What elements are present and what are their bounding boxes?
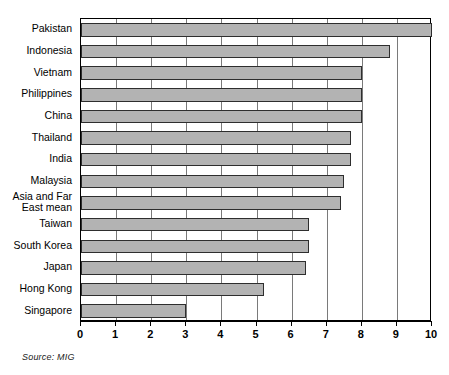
bar-chart-figure: PakistanIndonesiaVietnamPhilippinesChina… (0, 0, 449, 375)
x-tick-10 (431, 321, 432, 326)
bar (81, 283, 264, 297)
y-axis-label: Taiwan (39, 218, 72, 229)
bar (81, 304, 186, 318)
y-axis-label-line: Hong Kong (19, 283, 72, 294)
y-axis-label: Indonesia (26, 45, 72, 56)
x-tick-label: 5 (252, 328, 258, 340)
y-axis-label-line: Pakistan (32, 23, 72, 34)
source-note: Source: MIG (22, 352, 75, 362)
y-axis-label: Hong Kong (19, 283, 72, 294)
x-tick-6 (291, 321, 292, 326)
bar (81, 153, 351, 167)
y-axis-label-line: Philippines (21, 88, 72, 99)
y-axis-label-line: Malaysia (31, 175, 72, 186)
bar (81, 66, 362, 80)
x-tick-7 (326, 321, 327, 326)
y-axis-label: Japan (43, 261, 72, 272)
x-tick-label: 8 (358, 328, 364, 340)
y-axis-label: Singapore (24, 305, 72, 316)
bar (81, 196, 341, 210)
x-tick-label: 6 (288, 328, 294, 340)
x-tick-label: 3 (182, 328, 188, 340)
bars-layer (81, 19, 430, 320)
y-axis-label: Philippines (21, 88, 72, 99)
x-tick-label: 10 (425, 328, 437, 340)
bar (81, 218, 309, 232)
x-tick-3 (185, 321, 186, 326)
y-axis-label-line: Japan (43, 261, 72, 272)
y-axis-label: China (45, 110, 72, 121)
y-axis-label: Pakistan (32, 23, 72, 34)
x-tick-label: 7 (323, 328, 329, 340)
y-axis-label-line: Vietnam (34, 67, 72, 78)
x-tick-label: 0 (77, 328, 83, 340)
y-axis-label-line: Indonesia (26, 45, 72, 56)
y-axis-label: Asia and FarEast mean (12, 191, 72, 213)
y-axis-label-line: India (49, 153, 72, 164)
x-tick-2 (150, 321, 151, 326)
x-tick-label: 2 (147, 328, 153, 340)
x-axis: 012345678910 (80, 321, 431, 349)
y-axis-label: Malaysia (31, 175, 72, 186)
y-axis-label-line: South Korea (14, 240, 72, 251)
y-axis-label-line: Singapore (24, 305, 72, 316)
bar (81, 131, 351, 145)
x-tick-label: 9 (393, 328, 399, 340)
y-axis-label: South Korea (14, 240, 72, 251)
bar (81, 261, 306, 275)
y-axis-label-line: China (45, 110, 72, 121)
x-tick-8 (361, 321, 362, 326)
x-tick-4 (220, 321, 221, 326)
y-axis-label: India (49, 153, 72, 164)
y-axis-category-labels: PakistanIndonesiaVietnamPhilippinesChina… (0, 18, 76, 321)
y-axis-label-line: East mean (12, 202, 72, 213)
x-tick-0 (80, 321, 81, 326)
y-axis-label-line: Thailand (32, 132, 72, 143)
bar (81, 88, 362, 102)
bar (81, 23, 432, 37)
x-tick-label: 4 (217, 328, 223, 340)
x-tick-label: 1 (112, 328, 118, 340)
x-tick-9 (396, 321, 397, 326)
bar (81, 175, 344, 189)
x-tick-5 (256, 321, 257, 326)
bar (81, 110, 362, 124)
y-axis-label-line: Taiwan (39, 218, 72, 229)
bar (81, 45, 390, 59)
y-axis-label: Thailand (32, 132, 72, 143)
x-tick-1 (115, 321, 116, 326)
bar (81, 240, 309, 254)
plot-area (80, 18, 431, 321)
y-axis-label: Vietnam (34, 67, 72, 78)
